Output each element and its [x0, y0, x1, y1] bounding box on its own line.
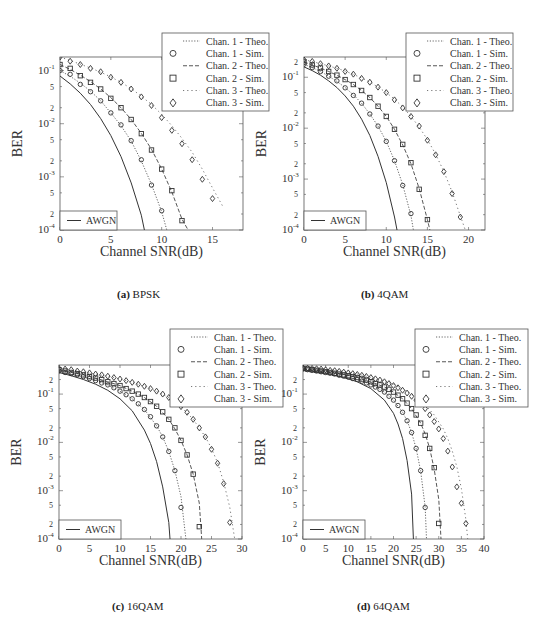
caption-a-label: (a): [117, 288, 130, 300]
y-tick-label: 5: [293, 501, 297, 510]
y-tick-label: 10: [281, 532, 293, 544]
legend-entry: Chan. 3 - Sim.: [459, 393, 517, 404]
y-axis-label: BER: [253, 438, 268, 466]
y-tick-label: 2: [293, 472, 297, 481]
legend-entry: Chan. 1 - Sim.: [459, 344, 517, 355]
y-tick-label: 2: [293, 376, 297, 385]
svg-text:AWGN: AWGN: [329, 524, 359, 535]
svg-text:-2: -2: [292, 434, 298, 442]
svg-text:-4: -4: [292, 531, 298, 539]
legend-entry: Chan. 3 - Theo.: [459, 381, 521, 392]
x-tick-label: 5: [323, 542, 329, 554]
legend-entry: Chan. 2 - Sim.: [459, 369, 517, 380]
legend-entry: Chan. 2 - Theo.: [459, 356, 521, 367]
caption-c-text: 16QAM: [127, 600, 164, 612]
caption-d-text: 64QAM: [373, 600, 410, 612]
caption-b-text: 4QAM: [377, 288, 408, 300]
y-tick-label: 10: [281, 435, 293, 447]
x-axis-label: Channel SNR(dB): [342, 553, 445, 569]
caption-a: (a) BPSK: [117, 288, 160, 300]
y-tick-label: 2: [293, 424, 297, 433]
svg-text:-1: -1: [292, 386, 298, 394]
caption-b: (b) 4QAM: [361, 288, 408, 300]
y-tick-label: 5: [293, 405, 297, 414]
svg-text:-3: -3: [292, 483, 298, 491]
caption-a-text: BPSK: [133, 288, 161, 300]
x-tick-label: 0: [300, 542, 306, 554]
caption-b-label: (b): [361, 288, 374, 300]
caption-d: (d) 64QAM: [357, 600, 410, 612]
caption-c: (c) 16QAM: [112, 600, 164, 612]
x-tick-label: 35: [456, 542, 468, 554]
legend-entry: Chan. 1 - Theo.: [459, 332, 521, 343]
caption-d-label: (d): [357, 600, 370, 612]
y-tick-label: 2: [293, 520, 297, 529]
awgn-legend: AWGN: [303, 520, 365, 539]
chart-svg: 0510152025303540210-15210-25210-35210-4C…: [0, 0, 544, 633]
x-tick-label: 40: [479, 542, 491, 554]
y-tick-label: 10: [281, 387, 293, 399]
y-tick-label: 5: [293, 453, 297, 462]
series-markers-circle: [301, 367, 428, 510]
caption-c-label: (c): [112, 600, 124, 612]
chart-legend: Chan. 1 - Theo.Chan. 1 - Sim.Chan. 2 - T…: [415, 329, 528, 407]
y-tick-label: 10: [281, 484, 293, 496]
